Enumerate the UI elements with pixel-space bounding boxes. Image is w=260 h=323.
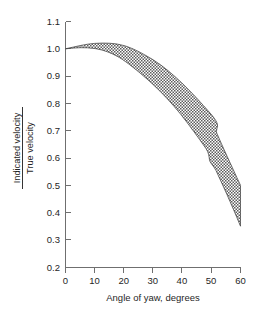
x-axis-ticks bbox=[66, 268, 241, 273]
x-axis-title: Angle of yaw, degrees bbox=[106, 292, 200, 303]
y-tick-label: 0.6 bbox=[47, 152, 60, 163]
x-tick-label: 20 bbox=[118, 275, 129, 286]
x-tick-label: 40 bbox=[177, 275, 188, 286]
y-tick-label: 1.0 bbox=[47, 43, 60, 54]
x-tick-label: 0 bbox=[63, 275, 68, 286]
y-axis-title-denominator: True velocity bbox=[25, 122, 35, 174]
y-tick-label: 0.7 bbox=[47, 125, 60, 136]
x-tick-label: 50 bbox=[206, 275, 217, 286]
y-tick-label: 0.3 bbox=[47, 234, 60, 245]
y-tick-label: 0.9 bbox=[47, 70, 60, 81]
y-axis-title-numerator: Indicated velocity bbox=[12, 112, 22, 183]
x-tick-label: 60 bbox=[235, 275, 246, 286]
x-tick-label: 30 bbox=[148, 275, 159, 286]
y-tick-label: 1.1 bbox=[47, 16, 60, 27]
x-tick-labels: 0 10 20 30 40 50 60 bbox=[63, 275, 246, 286]
y-tick-label: 0.8 bbox=[47, 98, 60, 109]
chart-figure: 1.1 1.0 0.9 0.8 0.7 0.6 0.5 0.4 0.3 0.2 … bbox=[0, 0, 260, 323]
y-tick-label: 0.4 bbox=[47, 207, 60, 218]
x-tick-label: 10 bbox=[89, 275, 100, 286]
y-tick-labels: 1.1 1.0 0.9 0.8 0.7 0.6 0.5 0.4 0.3 0.2 bbox=[47, 16, 60, 273]
chart-svg: 1.1 1.0 0.9 0.8 0.7 0.6 0.5 0.4 0.3 0.2 … bbox=[0, 0, 260, 323]
y-axis-ticks bbox=[66, 22, 71, 268]
uncertainty-band bbox=[66, 43, 241, 226]
y-axis-title: Indicated velocity True velocity bbox=[12, 107, 35, 189]
y-tick-label: 0.2 bbox=[47, 262, 60, 273]
y-tick-label: 0.5 bbox=[47, 180, 60, 191]
